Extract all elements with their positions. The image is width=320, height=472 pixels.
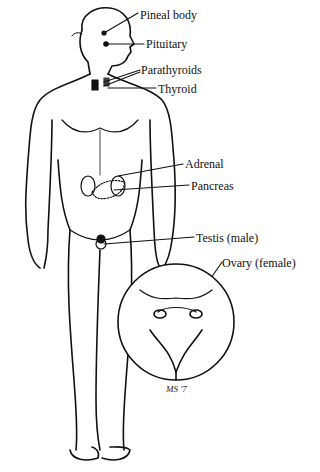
- label-pineal-body: Pineal body: [140, 9, 197, 21]
- label-parathyroids: Parathyroids: [141, 64, 202, 76]
- label-thyroid: Thyroid: [158, 83, 197, 95]
- label-testis: Testis (male): [196, 232, 258, 244]
- label-adrenal: Adrenal: [185, 158, 224, 170]
- torso: [26, 74, 176, 460]
- head: [72, 8, 134, 74]
- artist-signature: MS '7: [166, 384, 187, 394]
- label-pituitary: Pituitary: [146, 38, 187, 50]
- label-ovary: Ovary (female): [222, 257, 296, 269]
- label-pancreas: Pancreas: [191, 180, 234, 192]
- ovary-inset: [118, 264, 234, 380]
